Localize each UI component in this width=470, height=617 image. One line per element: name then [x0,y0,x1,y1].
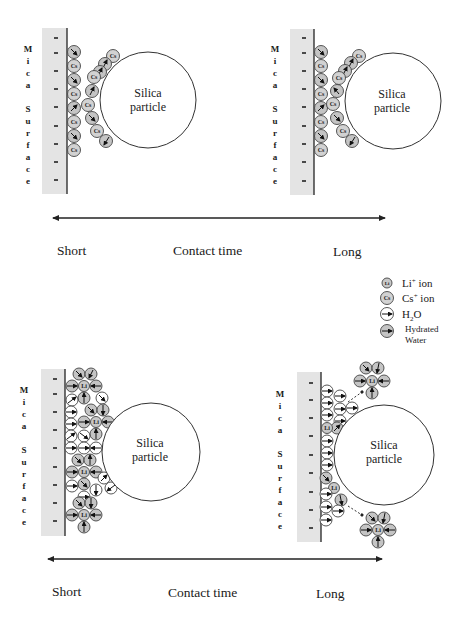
ion-adsorption-diagram: M i c a S u r f a c e Cs [0,0,470,617]
panel-li-short: M i c a S u r f a c e [20,368,200,536]
svg-text:H2O: H2O [402,308,421,323]
svg-text:r: r [26,128,30,138]
svg-text:particle: particle [132,450,168,464]
svg-text:Li: Li [81,383,87,389]
svg-text:r: r [273,128,277,138]
svg-text:Cs: Cs [71,63,78,69]
legend-item-li-ion: Li Li+ ion [382,277,433,289]
svg-text:M: M [271,44,280,54]
axis-label-short: Short [52,584,82,599]
svg-text:a: a [278,497,283,507]
svg-text:f: f [23,481,27,491]
svg-text:f: f [279,485,283,495]
adsorbed-layer-wall: Cs Cs Cs Cs [68,46,81,157]
adsorbed-layer-wall: Cs Cs Cs Cs [315,46,328,157]
svg-text:Water: Water [405,335,426,345]
silica-particle-label: Silica [370,438,398,452]
svg-text:e: e [26,176,30,186]
svg-text:Cs: Cs [330,101,337,107]
svg-text:i: i [274,56,277,66]
svg-text:e: e [273,176,277,186]
svg-text:Cs: Cs [85,102,92,108]
contact-time-axis-top: Short Contact time Long [53,218,385,259]
desorbed-hydrated-li-top: Li [348,362,390,402]
svg-text:particle: particle [366,452,402,466]
svg-text:M: M [24,44,33,54]
svg-text:Cs: Cs [318,119,325,125]
panel-cs-short: M i c a S u r f a c e Cs [24,28,196,194]
silica-particle-label: Silica [378,87,406,101]
svg-text:c: c [278,413,282,423]
mica-surface-label: M i c a S u r f a c e [24,44,33,186]
svg-text:a: a [22,493,27,503]
svg-text:a: a [273,152,278,162]
svg-text:Cs: Cs [384,295,391,301]
svg-text:Cs: Cs [318,147,325,153]
svg-text:c: c [26,164,30,174]
svg-text:Li+ ion: Li+ ion [402,277,433,289]
mica-surface-label: M i c a S u r f a c e [20,385,29,527]
axis-label-long: Long [333,244,362,259]
svg-text:a: a [26,80,31,90]
svg-text:u: u [272,116,277,126]
svg-text:M: M [20,385,29,395]
svg-text:c: c [22,409,26,419]
svg-text:Cs+ ion: Cs+ ion [402,292,435,304]
svg-text:c: c [22,505,26,515]
svg-text:u: u [21,457,26,467]
svg-text:c: c [26,68,30,78]
axis-label-contact-time: Contact time [173,243,242,258]
water-molecule-icon [381,308,394,321]
svg-text:i: i [23,397,26,407]
svg-text:Li: Li [369,378,375,384]
mica-surface [290,29,314,195]
svg-text:S: S [277,449,282,459]
svg-text:u: u [277,461,282,471]
hydrated-water-icon [381,325,394,338]
svg-text:Cs: Cs [91,74,98,80]
svg-text:Li: Li [93,419,99,425]
svg-text:Cs: Cs [318,91,325,97]
svg-text:Cs: Cs [340,128,347,134]
svg-text:Li: Li [81,469,87,475]
svg-text:a: a [26,152,31,162]
legend-item-water: H2O [381,308,422,324]
svg-text:u: u [25,116,30,126]
svg-text:Cs: Cs [71,147,78,153]
legend-item-hydrated-water: Hydrated Water [381,324,439,345]
svg-text:e: e [278,521,282,531]
svg-text:c: c [273,164,277,174]
svg-text:M: M [276,389,285,399]
svg-text:f: f [27,140,31,150]
svg-text:i: i [279,401,282,411]
svg-text:a: a [273,80,278,90]
legend-item-cs-ion: Cs Cs+ ion [381,292,435,305]
svg-text:S: S [21,445,26,455]
svg-text:Li: Li [385,281,390,286]
svg-text:Cs: Cs [94,128,101,134]
mica-surface [297,372,321,542]
silica-particle-label: Silica [136,436,164,450]
svg-text:e: e [22,517,26,527]
silica-particle-label: Silica [134,86,162,100]
svg-text:Cs: Cs [356,53,363,59]
svg-text:particle: particle [374,101,410,115]
contact-time-axis-bottom: Short Contact time Long [48,559,382,601]
svg-text:S: S [25,104,30,114]
svg-text:a: a [22,421,27,431]
svg-text:Cs: Cs [336,75,343,81]
svg-text:Hydrated: Hydrated [405,324,439,334]
svg-text:r: r [22,469,26,479]
svg-text:Cs: Cs [318,63,325,69]
svg-text:c: c [278,509,282,519]
axis-label-short: Short [57,243,87,258]
svg-text:f: f [274,140,278,150]
svg-text:Cs: Cs [110,53,117,59]
svg-text:particle: particle [130,100,166,114]
svg-text:Cs: Cs [71,91,78,97]
svg-text:Li: Li [375,527,381,533]
panel-li-long: M i c a S u r f a c e [276,362,434,548]
mica-surface-label: M i c a S u r f a c e [276,389,285,531]
svg-text:a: a [278,425,283,435]
svg-text:r: r [278,473,282,483]
